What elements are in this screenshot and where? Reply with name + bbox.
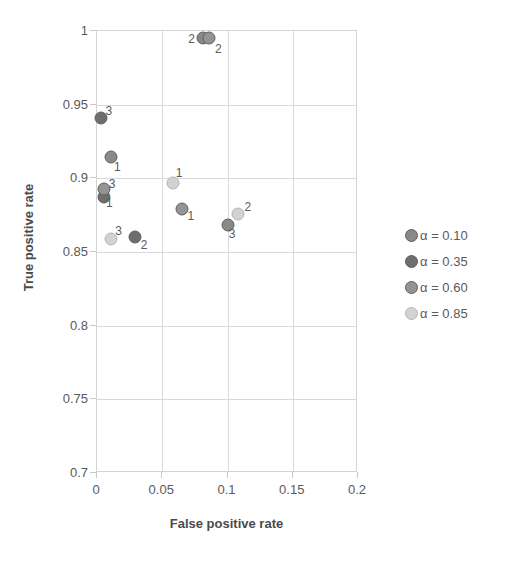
gridline-vertical (162, 31, 163, 471)
gridline-horizontal (97, 105, 356, 106)
y-tick-label: 0.85 (63, 244, 88, 259)
y-tick-label: 0.9 (70, 170, 88, 185)
y-tick-mark (90, 398, 96, 399)
x-tick-mark (357, 472, 358, 478)
legend-item[interactable]: α = 0.10 (405, 222, 505, 248)
gridline-horizontal (97, 326, 356, 327)
y-tick-mark (90, 177, 96, 178)
scatter-chart-figure: 111122223333 True positive rate False po… (0, 0, 505, 569)
legend: α = 0.10α = 0.35α = 0.60α = 0.85 (405, 222, 505, 326)
data-point-label: 3 (229, 227, 236, 241)
data-point-label: 3 (115, 224, 122, 238)
x-tick-label: 0.1 (217, 482, 235, 497)
y-tick-label: 0.8 (70, 317, 88, 332)
data-point-label: 3 (105, 104, 112, 118)
data-point-label: 1 (106, 196, 113, 210)
data-point-label: 2 (188, 32, 195, 46)
gridline-horizontal (97, 178, 356, 179)
data-point-label: 3 (109, 177, 116, 191)
x-tick-label: 0.2 (348, 482, 366, 497)
x-tick-label: 0 (92, 482, 99, 497)
legend-item[interactable]: α = 0.35 (405, 248, 505, 274)
legend-swatch-circle-icon (405, 307, 418, 320)
y-tick-label: 0.75 (63, 391, 88, 406)
gridline-vertical (228, 31, 229, 471)
legend-swatch-circle-icon (405, 281, 418, 294)
y-axis-title: True positive rate (21, 148, 36, 328)
gridline-vertical (293, 31, 294, 471)
x-tick-mark (227, 472, 228, 478)
x-tick-label: 0.05 (149, 482, 174, 497)
legend-label: α = 0.35 (420, 254, 468, 269)
data-point-label: 1 (114, 160, 121, 174)
y-tick-label: 1 (81, 23, 88, 38)
y-tick-mark (90, 104, 96, 105)
y-tick-mark (90, 30, 96, 31)
legend-swatch-circle-icon (405, 229, 418, 242)
data-point-label: 1 (188, 209, 195, 223)
legend-swatch-circle-icon (405, 255, 418, 268)
legend-label: α = 0.10 (420, 228, 468, 243)
data-point (202, 32, 215, 45)
legend-item[interactable]: α = 0.60 (405, 274, 505, 300)
data-point-label: 2 (215, 42, 222, 56)
data-point-label: 2 (141, 238, 148, 252)
y-tick-label: 0.95 (63, 96, 88, 111)
data-point-label: 1 (176, 166, 183, 180)
legend-label: α = 0.60 (420, 280, 468, 295)
gridline-horizontal (97, 252, 356, 253)
x-tick-label: 0.15 (279, 482, 304, 497)
x-tick-mark (96, 472, 97, 478)
data-point-label: 2 (244, 200, 251, 214)
y-tick-mark (90, 325, 96, 326)
y-tick-mark (90, 251, 96, 252)
x-tick-mark (292, 472, 293, 478)
data-point (231, 208, 244, 221)
gridline-horizontal (97, 399, 356, 400)
x-tick-mark (161, 472, 162, 478)
y-tick-label: 0.7 (70, 465, 88, 480)
legend-item[interactable]: α = 0.85 (405, 300, 505, 326)
legend-label: α = 0.85 (420, 306, 468, 321)
x-axis-title: False positive rate (96, 516, 357, 531)
plot-area: 111122223333 (96, 30, 357, 472)
